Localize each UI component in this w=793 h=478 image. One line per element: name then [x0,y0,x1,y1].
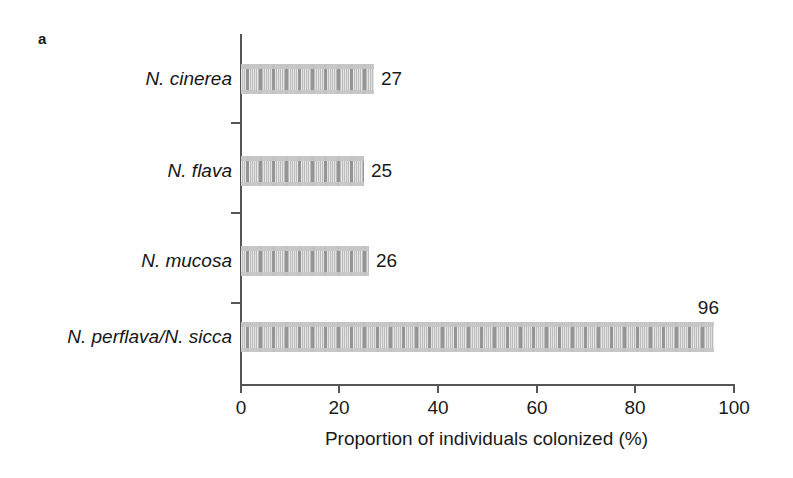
x-tick-label-60: 60 [526,397,547,419]
value-label-n-flava: 25 [371,160,392,182]
category-label-n-mucosa: N. mucosa [141,250,232,272]
y-axis-tick [231,212,240,214]
x-tick-label-20: 20 [328,397,349,419]
x-tick-label-0: 0 [236,397,247,419]
x-axis-tick [733,384,735,393]
y-axis-tick [231,302,240,304]
category-label-n-cinerea: N. cinerea [145,68,232,90]
x-tick-label-100: 100 [718,397,750,419]
x-axis-tick [338,384,340,393]
bar-n-mucosa [241,246,369,276]
bar-n-flava [241,156,364,186]
value-label-n-perflava-n-sicca: 96 [698,297,719,319]
figure-panel-a: a N. cinerea N. flava N. mucosa N. perfl… [0,0,793,478]
category-axis-labels: N. cinerea N. flava N. mucosa N. perflav… [0,0,232,478]
x-tick-label-80: 80 [624,397,645,419]
x-tick-label-40: 40 [427,397,448,419]
x-axis-tick [536,384,538,393]
x-axis-tick [437,384,439,393]
x-axis-title: Proportion of individuals colonized (%) [240,428,733,450]
category-label-n-flava: N. flava [168,160,232,182]
value-label-n-cinerea: 27 [381,68,402,90]
x-axis-tick [240,384,242,393]
category-label-n-perflava-n-sicca: N. perflava/N. sicca [67,326,232,348]
plot-area: 0 20 40 60 80 100 27 25 26 96 [240,34,733,384]
x-axis-tick [634,384,636,393]
bar-n-cinerea [241,64,374,94]
value-label-n-mucosa: 26 [376,250,397,272]
y-axis-tick [231,122,240,124]
x-axis-line [240,384,735,386]
bar-n-perflava-n-sicca [241,322,714,352]
